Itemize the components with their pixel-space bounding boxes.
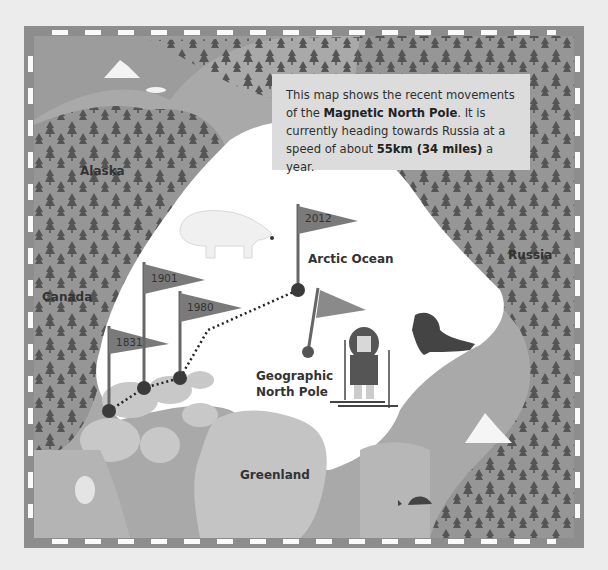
flag-year-1831: 1831 — [116, 336, 143, 348]
info-bold-magnetic-north-pole: Magnetic North Pole — [324, 106, 458, 120]
label-greenland: Greenland — [240, 468, 310, 482]
info-bold-speed: 55km (34 miles) — [377, 142, 483, 156]
frame-dashes-bottom — [52, 539, 556, 544]
flag-year-1980: 1980 — [187, 301, 214, 313]
label-russia: Russia — [508, 248, 552, 262]
info-box: This map shows the recent movements of t… — [272, 74, 530, 170]
flag-year-1901: 1901 — [151, 272, 178, 284]
frame-dashes-right — [575, 56, 580, 518]
info-line-3: currently heading towards Russia at a — [286, 122, 518, 140]
info-text: of the — [286, 106, 324, 120]
frame-dashes-top — [52, 30, 556, 35]
label-geographic-north-pole: Geographic North Pole — [256, 368, 333, 400]
info-text: . It is — [457, 106, 485, 120]
info-line-4: speed of about 55km (34 miles) a year. — [286, 140, 518, 176]
info-line-2: of the Magnetic North Pole. It is — [286, 104, 518, 122]
label-alaska: Alaska — [80, 164, 125, 178]
frame-dashes-left — [28, 56, 33, 518]
label-geographic: Geographic — [256, 368, 333, 384]
label-arctic-ocean: Arctic Ocean — [308, 252, 394, 266]
label-north-pole: North Pole — [256, 384, 333, 400]
info-line-1: This map shows the recent movements — [286, 86, 518, 104]
label-canada: Canada — [42, 290, 92, 304]
info-text: speed of about — [286, 142, 377, 156]
flag-year-2012: 2012 — [305, 212, 332, 224]
